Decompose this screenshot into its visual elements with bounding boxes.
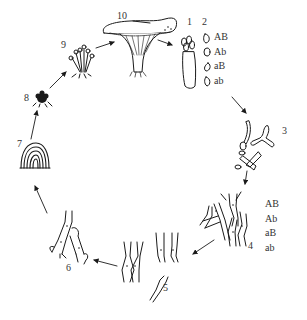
stage-label-2: 2: [202, 17, 207, 27]
young-fruiting-bodies-icon: [69, 45, 94, 78]
spore-genotype-2: Ab: [214, 47, 226, 57]
secondary-hyphae-icon: [50, 211, 88, 264]
stage-label-9: 9: [61, 40, 66, 50]
stage-label-5: 5: [163, 283, 168, 293]
basidium-icon: [182, 36, 196, 88]
primary-hyphae-icon: [200, 192, 247, 246]
hyphae-genotype-4: ab: [265, 243, 274, 253]
mushroom-fruiting-body-icon: [103, 18, 176, 77]
basidiospores-icon: [204, 34, 211, 86]
life-cycle-diagram: [0, 0, 307, 320]
stage-label-4: 4: [248, 241, 253, 251]
stage-label-3: 3: [282, 126, 287, 136]
stage-label-7: 7: [17, 139, 22, 149]
stage-label-8: 8: [24, 93, 29, 103]
spore-genotype-1: AB: [214, 32, 228, 42]
stage-label-6: 6: [66, 263, 71, 273]
stage-label-1: 1: [187, 17, 192, 27]
stage-label-10: 10: [117, 11, 127, 21]
spore-genotype-3: aB: [214, 61, 225, 71]
hyphae-genotype-2: Ab: [265, 214, 277, 224]
primordium-icon: [33, 91, 52, 108]
hyphae-genotype-1: AB: [265, 199, 279, 209]
spore-genotype-4: ab: [214, 76, 223, 86]
hyphal-fusion-icon: [122, 233, 178, 302]
mycelium-colony-icon: [20, 143, 50, 168]
hyphae-genotype-3: aB: [265, 228, 276, 238]
cycle-arrows: [31, 40, 247, 266]
germinating-spores-icon: [235, 121, 274, 170]
